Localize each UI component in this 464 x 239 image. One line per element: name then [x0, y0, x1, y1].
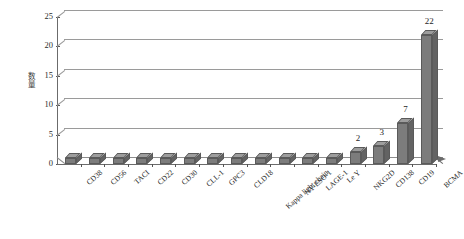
y-axis-tick-label: 10: [33, 99, 53, 109]
bar-front-face: [65, 158, 76, 164]
plot-area: 23722: [57, 17, 443, 164]
x-axis-tickmark: [152, 164, 153, 167]
gridline: [64, 10, 443, 11]
x-axis-label: CD22: [156, 168, 176, 187]
y-axis-title: 数量: [20, 72, 34, 88]
gridline-riser: [57, 11, 65, 18]
x-axis-tickmark: [318, 164, 319, 167]
bar-front-face: [231, 158, 242, 164]
x-axis-arrow: [438, 156, 446, 162]
bar-front-face: [160, 158, 171, 164]
x-axis-label: CD30: [180, 168, 200, 187]
x-axis-tickmark: [223, 164, 224, 167]
x-axis-label: CLD18: [252, 168, 275, 190]
bar-front-face: [350, 152, 361, 164]
x-axis-tickmark: [294, 164, 295, 167]
bar-front-face: [184, 158, 195, 164]
bar-front-face: [136, 158, 147, 164]
floor-left-edge: [57, 157, 65, 164]
bar: [421, 35, 432, 164]
bar-front-face: [255, 158, 266, 164]
gridline-riser: [57, 41, 65, 48]
bar: [326, 158, 337, 164]
bar: [136, 158, 147, 164]
bar: [89, 158, 100, 164]
x-axis-label: CD19: [417, 168, 437, 187]
x-axis-tickmark: [389, 164, 390, 167]
bar-front-face: [113, 158, 124, 164]
x-axis-label: CLL-1: [204, 168, 225, 189]
bar-front-face: [326, 158, 337, 164]
x-axis-tickmark: [104, 164, 105, 167]
x-axis-label: CD138: [394, 168, 416, 189]
bar-value-label: 3: [367, 127, 397, 137]
gridline-riser: [57, 70, 65, 77]
x-axis-label: CD38: [85, 168, 105, 187]
bar: [255, 158, 266, 164]
x-axis-label: GPC3: [227, 168, 247, 187]
x-axis-label: BCMA: [441, 168, 464, 190]
x-axis-tickmark: [412, 164, 413, 167]
x-axis-label: Le Y: [345, 168, 362, 185]
y-axis-tick-label: 5: [33, 129, 53, 139]
x-axis-tickmark: [365, 164, 366, 167]
bar: [207, 158, 218, 164]
y-axis-tick-label: 15: [33, 70, 53, 80]
bar: [279, 158, 290, 164]
gridline: [64, 98, 443, 99]
gridline: [64, 39, 443, 40]
x-axis-label: CD56: [109, 168, 129, 187]
x-axis-tickmark: [270, 164, 271, 167]
x-axis-label: TACI: [132, 168, 151, 186]
bar-front-face: [397, 123, 408, 164]
x-axis-tickmark: [128, 164, 129, 167]
bar-front-face: [421, 35, 432, 164]
x-axis-tickmark: [436, 164, 437, 167]
bar: [397, 123, 408, 164]
bar: [373, 146, 384, 164]
x-axis-tickmark: [247, 164, 248, 167]
bar-value-label: 7: [390, 104, 420, 114]
bar-front-face: [89, 158, 100, 164]
bar-front-face: [302, 158, 313, 164]
bar-front-face: [207, 158, 218, 164]
gridline: [64, 69, 443, 70]
bar-side-face: [408, 117, 414, 164]
bar-front-face: [279, 158, 290, 164]
bar: [113, 158, 124, 164]
bar-front-face: [373, 146, 384, 164]
x-axis-tickmark: [199, 164, 200, 167]
x-axis-label: NKG2D: [371, 168, 396, 192]
y-axis-tick-label: 25: [33, 11, 53, 21]
bar: [65, 158, 76, 164]
x-axis-tickmark: [81, 164, 82, 167]
bar: [302, 158, 313, 164]
bar: [231, 158, 242, 164]
bar-value-label: 22: [414, 16, 444, 26]
x-axis-tickmark: [341, 164, 342, 167]
bar: [184, 158, 195, 164]
gridline-riser: [57, 99, 65, 106]
bar: [160, 158, 171, 164]
y-axis-tick-label: 0: [33, 158, 53, 168]
bar: [350, 152, 361, 164]
x-axis-tickmark: [175, 164, 176, 167]
bar-side-face: [432, 29, 438, 164]
y-axis-tick-label: 20: [33, 40, 53, 50]
gridline-riser: [57, 129, 65, 136]
